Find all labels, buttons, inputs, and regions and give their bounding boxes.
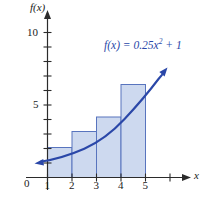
figure-riemann-sum: f(x) x 0 1 2 3 4 5 5 10 f(x) = 0.25x2 + … (0, 0, 206, 208)
x-tick-label-5: 5 (143, 180, 149, 191)
y-tick-label-10: 10 (27, 27, 38, 38)
bar-series (48, 85, 146, 178)
y-axis-label: f(x) (30, 2, 45, 13)
x-tick-label-1: 1 (45, 180, 51, 191)
x-tick-label-4: 4 (118, 180, 124, 191)
curve-arrow-start (35, 159, 44, 165)
function-equation-tail: + 1 (162, 39, 181, 51)
x-tick-label-2: 2 (69, 180, 75, 191)
y-tick-label-5: 5 (33, 99, 39, 110)
x-axis-label: x (194, 170, 199, 181)
x-tick-label-3: 3 (94, 180, 100, 191)
function-equation: f(x) = 0.25x2 + 1 (104, 38, 182, 51)
x-tick-label-0: 0 (24, 178, 30, 189)
y-axis (44, 10, 52, 190)
function-equation-base: f(x) = 0.25x (104, 39, 159, 51)
bar-2 (72, 132, 97, 178)
